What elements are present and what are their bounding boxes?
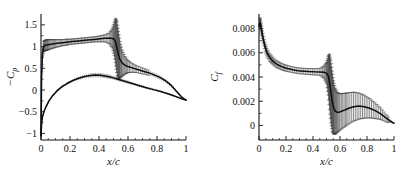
y-tick-label: 0.002 (233, 96, 256, 107)
error-bar-group (40, 18, 184, 116)
y-axis-title: −Cp (4, 68, 19, 87)
x-tick-label: 1 (392, 143, 397, 154)
x-tick-label: 0.6 (122, 143, 135, 154)
cp-plot-svg: 00.20.40.60.81−1−0.500.511.5x/c−Cp (0, 0, 202, 172)
x-tick-label: 0.8 (361, 143, 374, 154)
error-bar-group (258, 18, 394, 135)
chart-panel-cp: 00.20.40.60.81−1−0.500.511.5x/c−Cp (0, 0, 202, 172)
y-tick-label: 0.004 (233, 72, 256, 83)
x-tick-label: 0.2 (64, 143, 77, 154)
y-axis-title: Cf (208, 70, 223, 81)
x-tick-label: 0 (39, 143, 44, 154)
x-tick-label: 0 (257, 143, 262, 154)
y-tick-label: 0 (250, 120, 255, 131)
x-tick-label: 1 (184, 143, 189, 154)
x-tick-label: 0.4 (93, 143, 106, 154)
y-tick-label: 1 (32, 41, 37, 52)
x-tick-label: 0.8 (151, 143, 164, 154)
y-tick-label: −0.5 (19, 106, 37, 117)
x-axis-title: x/c (319, 155, 333, 167)
cf-plot-svg: 00.20.40.60.8100.0020.0040.0060.008x/cCf (202, 0, 404, 172)
x-tick-label: 0.6 (334, 143, 347, 154)
y-tick-label: 0 (32, 85, 37, 96)
x-tick-label: 0.2 (280, 143, 293, 154)
figure-container: 00.20.40.60.81−1−0.500.511.5x/c−Cp 00.20… (0, 0, 404, 172)
x-tick-label: 0.4 (307, 143, 320, 154)
y-tick-label: 1.5 (25, 19, 38, 30)
y-tick-label: −1 (26, 128, 37, 139)
y-tick-label: 0.006 (233, 47, 256, 58)
data-curve-lower-surface (41, 75, 186, 136)
y-tick-label: 0.5 (25, 63, 38, 74)
data-curve-skin-friction (259, 22, 394, 123)
x-axis-title: x/c (106, 155, 120, 167)
chart-panel-cf: 00.20.40.60.8100.0020.0040.0060.008x/cCf (202, 0, 404, 172)
y-tick-label: 0.008 (233, 23, 256, 34)
error-bar-group (41, 73, 185, 132)
